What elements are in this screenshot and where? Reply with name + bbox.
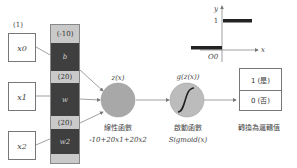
w-to-z-arrow [80,99,100,100]
step-plot-origin-label: O0 [208,53,218,61]
activation-node-formula: Sigmoid(x) [169,136,208,144]
linear-node-label: z(x) [111,74,124,82]
w2-to-z-arrow [80,112,103,123]
activation-node-circle [170,83,204,117]
activation-node-caption: 啟動函數 [174,122,202,132]
step-upper-bar [223,19,252,23]
output-caption: 轉換為邏輯值 [238,122,280,132]
weight-symbol-w2: w2 [51,129,79,154]
step-lower-bar [191,46,222,50]
input-label-x0: x0 [17,43,27,52]
weight-column-footer [51,154,79,163]
weight-symbol-b: b [51,43,79,71]
bias-input-label: (1) [13,21,23,29]
step-plot-y-tick: 1 [214,17,218,25]
input-label-x2: x2 [17,141,27,150]
linear-node-formula: -10+20x1+20x2 [89,136,147,144]
input-box-x1: x1 [8,82,36,111]
weight-column: (-10) b (20) w (20) w2 [50,24,80,164]
b-to-z-arrow [80,70,103,91]
activation-node-label: g(z(x)) [176,73,199,81]
step-plot-x-label: x [261,46,265,54]
input-box-x0: x0 [8,33,36,62]
weight-value-w2: (20) [51,116,79,129]
output-box: 1 (是) 0 (否) [239,68,282,111]
weight-value-w: (20) [51,71,79,83]
linear-node-circle [101,83,135,117]
input-label-x1: x1 [17,92,27,101]
linear-node-caption: 線性函數 [104,122,132,132]
weight-symbol-w: w [51,83,79,116]
output-option-true: 1 (是) [240,69,281,91]
step-plot-y-label: y [214,5,218,13]
weight-value-b: (-10) [51,25,79,43]
input-box-x2: x2 [8,131,36,160]
output-option-false: 0 (否) [240,90,281,110]
